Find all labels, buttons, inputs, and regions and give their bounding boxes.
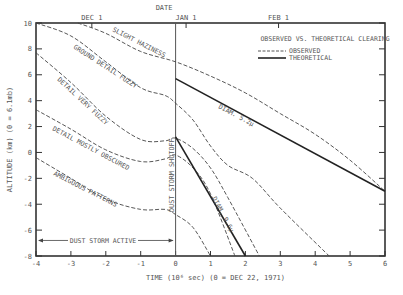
x-tick-label: 5: [348, 260, 352, 268]
top-date-label: JAN 1: [176, 14, 197, 22]
y-tick-label: 10: [24, 20, 32, 28]
y-tick-label: -2: [24, 175, 32, 183]
y-tick-label: -8: [24, 253, 32, 261]
legend-theoretical-label: THEORETICAL: [289, 54, 332, 62]
x-tick-label: -4: [32, 260, 40, 268]
x-tick-label: 6: [383, 260, 387, 268]
y-tick-label: -6: [24, 227, 32, 235]
x-tick-label: 4: [313, 260, 317, 268]
labels: OBSERVED VS. THEORETICAL CLEARINGOBSERVE…: [38, 26, 390, 245]
x-tick-label: -3: [67, 260, 75, 268]
arrowhead-left-icon: [38, 238, 43, 242]
x-tick-label: 2: [243, 260, 247, 268]
label-diam-9-6: DIAM. 9.6μ: [210, 195, 235, 233]
theoretical-curve: [176, 137, 246, 256]
y-tick-label: 8: [28, 45, 32, 53]
legend-title: OBSERVED VS. THEORETICAL CLEARING: [260, 35, 389, 43]
label-diam-5-2: DIAM. 5.2μ: [217, 103, 255, 128]
x-tick-label: 0: [173, 260, 177, 268]
top-date-label: DEC 1: [81, 14, 102, 22]
label-detail-mostly-obscured: DETAIL MOSTLY OBSCURED: [51, 125, 131, 173]
top-date-label: FEB 1: [268, 14, 289, 22]
x-tick-label: 1: [208, 260, 212, 268]
top-axis-title: DATE: [156, 4, 173, 12]
x-tick-label: 3: [278, 260, 282, 268]
y-axis-title: ALTITUDE (km) (0 = 6.1mb): [6, 87, 14, 192]
arrowhead-right-icon: [169, 238, 174, 242]
x-axis-title: TIME (10⁶ sec) (0 = DEC 22, 1971): [146, 274, 285, 282]
label-dust-storm-shutoff: DUST STORM SHUTOFF: [168, 138, 176, 212]
y-tick-label: 4: [28, 97, 32, 105]
x-tick-label: -2: [102, 260, 110, 268]
label-detail-very-fuzzy: DETAIL VERY FUZZY: [56, 76, 110, 127]
label-ground-detail-fuzzy: GROUND DETAIL FUZZY: [72, 43, 139, 90]
y-tick-label: 0: [28, 149, 32, 157]
theoretical-curve: [176, 79, 385, 192]
y-tick-label: 6: [28, 71, 32, 79]
label-dust-storm-active: DUST STORM ACTIVE: [70, 237, 137, 245]
y-tick-label: 2: [28, 123, 32, 131]
x-tick-label: -1: [136, 260, 144, 268]
label-slight-haziness: SLIGHT HAZINESS: [111, 26, 167, 60]
chart: -4-3-2-10123456-8-6-4-20246810DEC 1JAN 1…: [0, 0, 403, 295]
y-tick-label: -4: [24, 201, 32, 209]
label-ambiguous-patterns: AMBIGUOUS PATTERNS: [52, 170, 118, 209]
